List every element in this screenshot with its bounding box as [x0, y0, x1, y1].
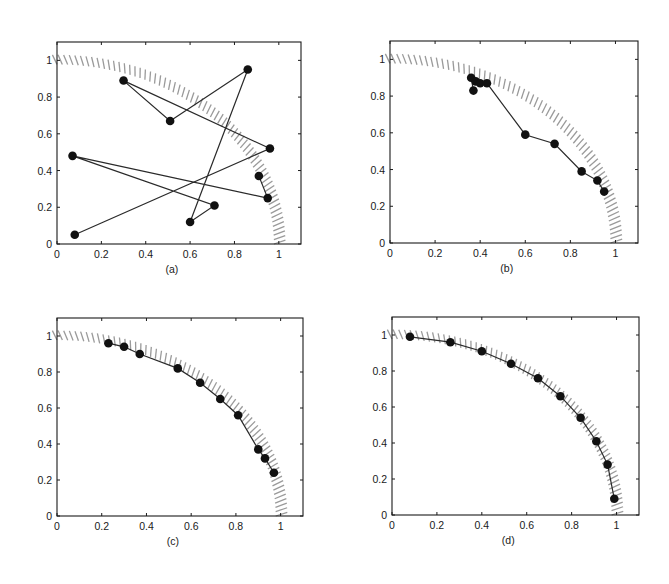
x-tick-label: 1 [276, 248, 282, 260]
panel-label: (a) [165, 263, 178, 275]
x-tick-label: 0.6 [183, 248, 198, 260]
y-tick-label: 0 [381, 509, 387, 521]
x-tick-label: 0.4 [475, 519, 490, 531]
data-point-marker [186, 218, 195, 227]
data-point-marker [266, 144, 275, 153]
data-point-marker [263, 194, 272, 203]
x-tick-label: 1 [613, 247, 619, 259]
y-tick-label: 0.8 [37, 366, 52, 378]
figure: 00.20.40.60.8100.20.40.60.81(a) 00.20.40… [0, 0, 669, 584]
data-point-marker [469, 86, 478, 95]
x-tick-label: 0.8 [229, 520, 244, 532]
data-point-marker [210, 201, 219, 210]
x-tick-label: 0.4 [139, 520, 154, 532]
y-tick-label: 0.2 [372, 473, 387, 485]
data-point-marker [507, 360, 516, 369]
data-point-marker [446, 338, 455, 347]
axes-frame [57, 42, 301, 244]
panel-a: 00.20.40.60.8100.20.40.60.81(a) [37, 42, 301, 275]
series-line [73, 70, 270, 235]
x-tick-label: 0.4 [473, 247, 488, 259]
axes-frame [57, 318, 303, 516]
y-tick-label: 0.2 [37, 474, 52, 486]
data-point-marker [261, 454, 270, 463]
data-point-marker [593, 176, 602, 185]
data-point-marker [68, 152, 77, 161]
data-point-marker [603, 460, 612, 469]
data-point-marker [478, 347, 487, 356]
y-tick-label: 0.8 [372, 365, 387, 377]
y-tick-label: 0 [379, 237, 385, 249]
axes-frame [392, 317, 639, 515]
series-line [108, 343, 274, 473]
data-point-marker [166, 117, 175, 126]
data-point-marker [556, 392, 565, 401]
data-point-marker [576, 414, 585, 423]
data-point-marker [534, 374, 543, 383]
data-point-marker [243, 65, 252, 74]
panel-label: (b) [500, 262, 513, 274]
data-point-marker [196, 379, 205, 388]
data-point-marker [216, 395, 225, 404]
y-tick-label: 0 [46, 510, 52, 522]
x-tick-label: 1 [278, 520, 284, 532]
y-tick-label: 0.2 [370, 200, 385, 212]
axes-frame [390, 41, 638, 243]
y-tick-label: 1 [46, 54, 52, 66]
x-tick-label: 1 [614, 519, 620, 531]
hatched-reference-band [385, 54, 622, 243]
y-tick-label: 0.8 [37, 91, 52, 103]
panel-b: 00.20.40.60.8100.20.40.60.81(b) [370, 41, 638, 274]
y-tick-label: 1 [379, 53, 385, 65]
panel-label: (c) [167, 535, 179, 547]
x-tick-label: 0.6 [184, 520, 199, 532]
x-tick-label: 0.4 [138, 248, 153, 260]
hatched-reference-band [387, 330, 623, 515]
data-point-marker [592, 437, 601, 446]
x-tick-label: 0.8 [564, 519, 579, 531]
x-tick-label: 0 [54, 248, 60, 260]
y-tick-label: 0 [46, 238, 52, 250]
x-tick-label: 0.2 [94, 248, 109, 260]
x-tick-label: 0 [389, 519, 395, 531]
data-point-marker [610, 495, 619, 504]
x-tick-label: 0.6 [519, 519, 534, 531]
y-tick-label: 0.4 [372, 437, 387, 449]
x-tick-label: 0.8 [563, 247, 578, 259]
y-tick-label: 1 [381, 329, 387, 341]
x-tick-label: 0 [387, 247, 393, 259]
y-tick-label: 0.2 [37, 201, 52, 213]
y-tick-label: 0.6 [37, 402, 52, 414]
x-tick-label: 0.6 [518, 247, 533, 259]
panel-d: 00.20.40.60.8100.20.40.60.81(d) [372, 317, 639, 546]
data-point-marker [254, 445, 263, 454]
data-point-marker [521, 130, 530, 139]
x-tick-label: 0.2 [430, 519, 445, 531]
data-point-marker [483, 79, 492, 88]
data-point-marker [600, 187, 609, 196]
data-point-marker [255, 172, 264, 181]
y-tick-label: 0.6 [37, 128, 52, 140]
y-tick-label: 0.6 [372, 401, 387, 413]
data-point-marker [135, 350, 144, 359]
x-tick-label: 0 [54, 520, 60, 532]
data-point-marker [406, 333, 415, 342]
data-point-marker [120, 343, 129, 352]
data-point-marker [119, 76, 128, 85]
data-point-marker [270, 469, 279, 478]
data-point-marker [104, 339, 113, 348]
y-tick-label: 1 [46, 330, 52, 342]
hatched-reference-band [52, 331, 287, 516]
y-tick-label: 0.8 [370, 90, 385, 102]
data-point-marker [550, 140, 559, 149]
data-point-marker [70, 231, 79, 240]
x-tick-label: 0.8 [227, 248, 242, 260]
panel-c: 00.20.40.60.8100.20.40.60.81(c) [37, 318, 303, 547]
y-tick-label: 0.4 [37, 438, 52, 450]
data-point-marker [577, 167, 586, 176]
x-tick-label: 0.2 [428, 247, 443, 259]
panel-label: (d) [502, 534, 515, 546]
y-tick-label: 0.4 [37, 165, 52, 177]
data-point-marker [173, 364, 182, 373]
y-tick-label: 0.4 [370, 164, 385, 176]
